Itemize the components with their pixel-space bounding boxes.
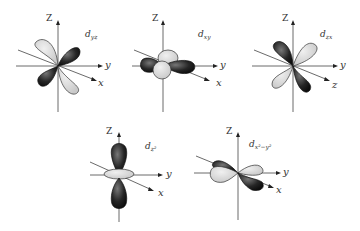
dx2y2-orbital-figure (180, 120, 290, 231)
y-axis-label: y (105, 60, 111, 70)
orbital-panel-dz2: Z y x dz² (90, 120, 190, 231)
orbital-panel-dx2y2: Z y x dx²−y² (180, 120, 290, 231)
orbital-panel-dzx: Z y z dzx (240, 0, 360, 120)
z-axis-label: Z (152, 14, 158, 23)
orbital-panel-dxy: Z y x dxy (120, 0, 240, 120)
y-axis-label: y (220, 60, 226, 70)
x-axis-label: x (216, 78, 222, 88)
orbital-label: dxy (198, 30, 211, 40)
orbital-label: dzx (320, 30, 332, 40)
z-axis-label: Z (46, 14, 52, 23)
lobe-light (35, 40, 58, 66)
orbital-label: dyz (85, 30, 97, 40)
z-axis-label: Z (226, 127, 232, 136)
orbital-label: dz² (145, 142, 156, 152)
lobe-dark (58, 48, 80, 66)
lobe-light (58, 66, 79, 94)
x-axis-label: x (98, 78, 104, 88)
orbital-label: dx²−y² (249, 140, 271, 150)
y-axis-label: y (283, 167, 289, 177)
y-axis-label: y (166, 169, 172, 179)
z-axis-label: Z (106, 127, 112, 136)
y-axis-label: y (340, 60, 346, 70)
x-axis-label: z (332, 80, 337, 90)
dz2-orbital-figure (90, 120, 190, 231)
x-axis-label: x (158, 188, 164, 198)
lobe-dark (38, 66, 58, 86)
dyz-orbital-figure (0, 0, 120, 120)
orbital-panel-dyz: Z y x dyz (0, 0, 120, 120)
x-axis-label: x (276, 185, 282, 195)
z-axis-label: Z (282, 14, 288, 23)
